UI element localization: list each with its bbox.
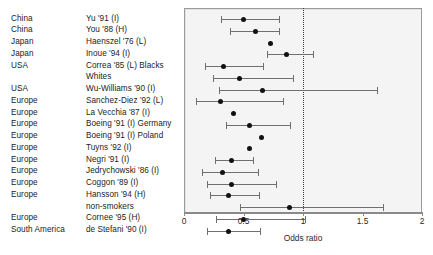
x-axis-tick-label: 2 [420, 216, 425, 226]
confidence-interval-line [219, 90, 377, 91]
confidence-interval-line [210, 195, 259, 196]
region-label: USA [11, 83, 28, 95]
study-label: Negri '91 (I) [86, 154, 129, 166]
study-row: EuropeBoeing '91 (I) Poland [0, 130, 184, 142]
study-label: Coggon '89 (I) [86, 177, 138, 189]
ci-cap-lower [226, 122, 227, 129]
confidence-interval-line [196, 101, 283, 102]
ci-cap-upper [383, 204, 384, 211]
ci-cap-lower [230, 28, 231, 35]
study-row: non-smokers [0, 201, 184, 213]
x-axis-tick-label: 1 [301, 216, 306, 226]
odds-ratio-point-marker [284, 52, 289, 57]
confidence-interval-line [202, 172, 258, 173]
ci-cap-lower [205, 63, 206, 70]
ci-cap-lower [267, 51, 268, 58]
study-row: USAWu-Williams '90 (I) [0, 83, 184, 95]
region-label: Europe [11, 95, 38, 107]
ci-cap-upper [293, 75, 294, 82]
ci-cap-lower [210, 192, 211, 199]
odds-ratio-point-marker [229, 182, 234, 187]
ci-cap-lower [240, 204, 241, 211]
odds-ratio-point-marker [218, 99, 223, 104]
region-label: China [11, 24, 33, 36]
confidence-interval-line [240, 207, 383, 208]
region-label: Europe [11, 130, 38, 142]
ci-cap-upper [377, 87, 378, 94]
odds-ratio-point-marker [241, 17, 246, 22]
ci-cap-lower [196, 98, 197, 105]
study-label: Inoue '94 (I) [86, 48, 130, 60]
x-axis [184, 212, 422, 214]
study-label: Haenszel '76 (L) [86, 36, 146, 48]
odds-ratio-point-marker [247, 123, 252, 128]
odds-ratio-point-marker [247, 146, 252, 151]
study-label: Hansson '94 (H) [86, 189, 146, 201]
confidence-interval-line [213, 78, 294, 79]
region-label: Europe [11, 212, 38, 224]
study-label: de Stefani '90 (I) [86, 224, 147, 236]
confidence-interval-line [207, 184, 276, 185]
ci-cap-upper [313, 51, 314, 58]
ci-cap-upper [263, 63, 264, 70]
study-row: ChinaYu '91 (I) [0, 13, 184, 25]
ci-cap-lower [207, 181, 208, 188]
region-label: Europe [11, 154, 38, 166]
study-row: EuropeCoggon '89 (I) [0, 177, 184, 189]
study-label: Sanchez-Diez '92 (L) [86, 95, 163, 107]
study-label: Cornee '95 (H) [86, 212, 140, 224]
confidence-interval-line [267, 54, 312, 55]
region-label: South America [11, 224, 65, 236]
ci-cap-upper [279, 16, 280, 23]
region-label: USA [11, 60, 28, 72]
study-label: Whites [86, 71, 111, 83]
ci-cap-upper [253, 157, 254, 164]
ci-cap-lower [221, 16, 222, 23]
x-axis-tick-label: 1.5 [357, 216, 369, 226]
confidence-interval-line [226, 125, 290, 126]
study-label: non-smokers [86, 201, 134, 213]
study-label: La Vecchia '87 (I) [86, 107, 150, 119]
odds-ratio-point-marker [220, 170, 225, 175]
plot-canvas [184, 8, 422, 213]
ci-cap-lower [215, 157, 216, 164]
confidence-interval-line [205, 66, 262, 67]
study-row: USACorrea '85 (L) Blacks [0, 60, 184, 72]
study-row: EuropeHansson '94 (H) [0, 189, 184, 201]
study-row: Whites [0, 71, 184, 83]
ci-cap-lower [202, 169, 203, 176]
ci-cap-upper [276, 181, 277, 188]
region-label: Japan [11, 36, 34, 48]
study-label: Yu '91 (I) [86, 13, 119, 25]
study-label: Wu-Williams '90 (I) [86, 83, 155, 95]
confidence-interval-line [221, 19, 279, 20]
odds-ratio-point-marker [268, 41, 273, 46]
ci-cap-lower [219, 87, 220, 94]
region-label: Europe [11, 142, 38, 154]
study-row: JapanHaenszel '76 (L) [0, 36, 184, 48]
ci-cap-upper [279, 28, 280, 35]
ci-cap-upper [258, 169, 259, 176]
odds-ratio-point-marker [221, 64, 226, 69]
odds-ratio-point-marker [259, 135, 264, 140]
x-axis-tick-label: 0.5 [238, 216, 250, 226]
study-row: EuropeBoeing '91 (I) Germany [0, 118, 184, 130]
study-row: EuropeLa Vecchia '87 (I) [0, 107, 184, 119]
confidence-interval-line [216, 219, 305, 220]
study-label: Correa '85 (L) Blacks [86, 60, 164, 72]
study-row: EuropeJedrychowski '86 (I) [0, 165, 184, 177]
x-axis-title: Odds ratio [184, 233, 422, 243]
study-row: ChinaYou '88 (H) [0, 24, 184, 36]
forest-plot-figure: ChinaYu '91 (I)ChinaYou '88 (H)JapanHaen… [0, 0, 433, 255]
odds-ratio-point-marker [287, 205, 292, 210]
ci-cap-upper [290, 122, 291, 129]
odds-ratio-point-marker [229, 158, 234, 163]
study-row: EuropeTuyns '92 (I) [0, 142, 184, 154]
region-label: China [11, 13, 33, 25]
study-row: EuropeNegri '91 (I) [0, 154, 184, 166]
odds-ratio-point-marker [226, 193, 231, 198]
odds-ratio-point-marker [237, 76, 242, 81]
region-label: Japan [11, 48, 34, 60]
region-label: Europe [11, 118, 38, 130]
study-label: You '88 (H) [86, 24, 127, 36]
